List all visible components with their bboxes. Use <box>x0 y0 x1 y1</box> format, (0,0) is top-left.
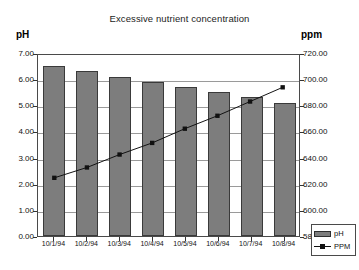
right-axis-unit-label: ppm <box>301 29 322 40</box>
x-axis-tick-label: 10/4/94 <box>135 240 169 247</box>
legend-label-ph: pH <box>334 229 344 238</box>
left-axis-tick-label: 7.00 <box>2 49 34 58</box>
ppm-marker <box>85 165 89 169</box>
ppm-marker <box>52 176 56 180</box>
x-axis-tick-label: 10/8/94 <box>267 240 301 247</box>
ppm-marker <box>215 114 219 118</box>
legend-label-ppm: PPM <box>334 242 350 251</box>
x-axis-tick-mark <box>152 237 153 241</box>
left-axis-unit-label: pH <box>16 29 29 40</box>
chart-title: Excessive nutrient concentration <box>0 13 359 24</box>
x-axis-tick-mark <box>251 237 252 241</box>
right-axis-tick-label: 680.00 <box>303 101 343 110</box>
right-axis-tick-mark <box>300 106 304 107</box>
x-axis-tick-mark <box>218 237 219 241</box>
left-axis-tick-mark <box>33 211 37 212</box>
chart-legend: pH PPM <box>311 224 356 256</box>
x-axis-tick-label: 10/7/94 <box>234 240 268 247</box>
legend-bar-swatch-icon <box>314 231 331 237</box>
plot-area <box>37 54 300 237</box>
x-axis-tick-mark <box>119 237 120 241</box>
right-axis-tick-mark <box>300 54 304 55</box>
right-axis-tick-label: 660.00 <box>303 127 343 136</box>
right-axis-tick-label: 700.00 <box>303 75 343 84</box>
x-axis-tick-label: 10/1/94 <box>36 240 70 247</box>
legend-item-ph: pH <box>314 227 353 240</box>
x-axis-tick-mark <box>86 237 87 241</box>
left-axis-tick-mark <box>33 159 37 160</box>
right-axis-tick-mark <box>300 132 304 133</box>
ppm-line-svg <box>38 55 299 236</box>
left-axis-tick-label: 0.00 <box>2 232 34 241</box>
left-axis-tick-mark <box>33 237 37 238</box>
right-axis-tick-mark <box>300 237 304 238</box>
x-axis-tick-mark <box>53 237 54 241</box>
legend-item-ppm: PPM <box>314 240 353 253</box>
left-axis-tick-mark <box>33 54 37 55</box>
left-axis-tick-mark <box>33 132 37 133</box>
chart-container: Excessive nutrient concentration pH ppm … <box>0 0 359 270</box>
ppm-marker <box>183 127 187 131</box>
ppm-marker <box>150 141 154 145</box>
x-axis-tick-label: 10/5/94 <box>168 240 202 247</box>
ppm-marker <box>117 152 121 156</box>
right-axis-tick-mark <box>300 211 304 212</box>
left-axis-tick-label: 5.00 <box>2 101 34 110</box>
x-axis-tick-mark <box>185 237 186 241</box>
left-axis-tick-label: 1.00 <box>2 206 34 215</box>
left-axis-tick-mark <box>33 106 37 107</box>
left-axis-tick-mark <box>33 185 37 186</box>
left-axis-tick-label: 2.00 <box>2 180 34 189</box>
ppm-marker <box>281 85 285 89</box>
right-axis-tick-mark <box>300 185 304 186</box>
right-axis-tick-label: 600.00 <box>303 206 343 215</box>
line-series-ppm <box>38 55 299 236</box>
left-axis-tick-label: 3.00 <box>2 154 34 163</box>
x-axis-tick-label: 10/2/94 <box>69 240 103 247</box>
legend-line-swatch-icon <box>314 243 331 250</box>
right-axis-tick-label: 620.00 <box>303 180 343 189</box>
x-axis-tick-label: 10/3/94 <box>102 240 136 247</box>
ppm-marker <box>248 99 252 103</box>
left-axis-tick-label: 4.00 <box>2 127 34 136</box>
right-axis-tick-mark <box>300 80 304 81</box>
left-axis-tick-mark <box>33 80 37 81</box>
right-axis-tick-label: 720.00 <box>303 49 343 58</box>
right-axis-tick-label: 640.00 <box>303 154 343 163</box>
x-axis-tick-mark <box>284 237 285 241</box>
left-axis-tick-label: 6.00 <box>2 75 34 84</box>
right-axis-tick-mark <box>300 159 304 160</box>
x-axis-tick-label: 10/6/94 <box>201 240 235 247</box>
